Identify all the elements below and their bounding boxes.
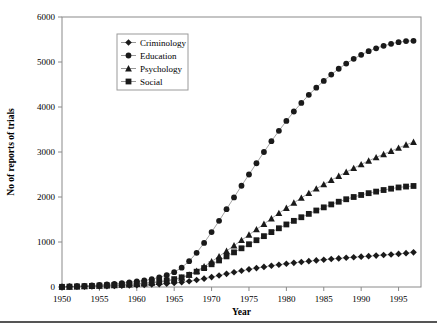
data-point-education — [411, 38, 417, 44]
data-point-social — [246, 241, 252, 247]
data-point-criminology — [261, 264, 268, 271]
data-point-social — [239, 245, 245, 251]
data-point-psychology — [373, 154, 380, 160]
y-tick-label: 6000 — [37, 12, 56, 22]
data-point-education — [276, 128, 282, 134]
data-point-criminology — [328, 256, 335, 263]
data-point-social — [119, 282, 125, 288]
data-point-education — [179, 265, 185, 271]
data-point-psychology — [365, 157, 372, 163]
data-point-criminology — [380, 252, 387, 259]
data-point-criminology — [298, 259, 305, 266]
data-point-social — [321, 204, 327, 210]
data-point-criminology — [365, 253, 372, 260]
data-point-psychology — [320, 181, 327, 187]
data-point-psychology — [350, 165, 357, 171]
data-point-criminology — [276, 261, 283, 268]
data-point-education — [239, 183, 245, 189]
data-point-criminology — [350, 254, 357, 261]
data-point-social — [351, 194, 357, 200]
figure-divider — [0, 321, 437, 323]
data-point-criminology — [223, 271, 230, 278]
data-point-criminology — [208, 274, 215, 281]
data-point-social — [171, 276, 177, 282]
data-point-criminology — [320, 256, 327, 263]
data-point-social — [358, 192, 364, 198]
data-point-education — [283, 118, 289, 124]
data-point-psychology — [403, 141, 410, 147]
data-point-education — [321, 78, 327, 84]
data-point-social — [156, 279, 162, 285]
data-point-education — [216, 218, 222, 224]
legend-label-social: Social — [140, 77, 163, 87]
y-tick-label: 4000 — [37, 102, 56, 112]
data-point-criminology — [186, 278, 193, 285]
data-point-social — [283, 222, 289, 228]
data-point-education — [171, 269, 177, 275]
data-point-psychology — [253, 226, 260, 232]
data-point-education — [164, 272, 170, 278]
data-point-psychology — [298, 194, 305, 200]
data-point-social — [328, 202, 334, 208]
data-point-psychology — [246, 231, 253, 237]
data-point-social — [411, 183, 417, 189]
data-point-social — [104, 282, 110, 288]
data-point-education — [328, 72, 334, 78]
data-point-criminology — [373, 252, 380, 259]
data-point-education — [254, 160, 260, 166]
y-tick-label: 0 — [51, 282, 56, 292]
data-point-psychology — [328, 177, 335, 183]
x-tick-label: 1965 — [165, 294, 184, 304]
data-point-social — [381, 187, 387, 193]
data-point-psychology — [305, 190, 312, 196]
y-axis-title: No of reports of trials — [6, 108, 16, 196]
data-point-social — [67, 284, 73, 290]
data-point-social — [216, 258, 222, 264]
data-point-psychology — [231, 242, 238, 248]
data-point-social — [149, 279, 155, 285]
data-point-social — [74, 284, 80, 290]
x-tick-label: 1990 — [352, 294, 371, 304]
data-point-social — [201, 265, 207, 271]
data-point-psychology — [335, 173, 342, 179]
data-point-social — [313, 208, 319, 214]
data-point-social — [224, 254, 230, 260]
data-point-education — [336, 66, 342, 72]
data-point-criminology — [216, 272, 223, 279]
legend-marker-education — [126, 53, 132, 59]
legend-marker-social — [126, 79, 132, 85]
data-point-criminology — [306, 258, 313, 265]
y-tick-label: 3000 — [37, 147, 56, 157]
data-point-psychology — [313, 185, 320, 191]
x-tick-label: 1985 — [315, 294, 334, 304]
data-point-psychology — [223, 248, 230, 254]
data-point-psychology — [238, 237, 245, 243]
data-point-education — [201, 240, 207, 246]
data-point-education — [186, 258, 192, 264]
data-point-social — [209, 261, 215, 267]
data-point-psychology — [410, 139, 417, 145]
data-point-social — [96, 283, 102, 289]
data-point-social — [269, 229, 275, 235]
data-point-education — [291, 109, 297, 115]
data-point-education — [396, 39, 402, 45]
data-point-psychology — [275, 210, 282, 216]
data-point-criminology — [335, 255, 342, 262]
data-point-education — [343, 61, 349, 67]
data-point-social — [194, 269, 200, 275]
y-tick-label: 5000 — [37, 57, 56, 67]
chart-figure: 0100020003000400050006000195019551960196… — [0, 0, 437, 332]
data-point-education — [373, 45, 379, 51]
data-point-social — [59, 284, 65, 290]
data-point-social — [111, 282, 117, 288]
data-point-education — [231, 195, 237, 201]
data-point-social — [291, 218, 297, 224]
data-point-education — [388, 41, 394, 47]
data-point-social — [298, 214, 304, 220]
data-point-psychology — [388, 148, 395, 154]
data-point-social — [336, 199, 342, 205]
data-point-education — [366, 48, 372, 54]
data-point-psychology — [290, 199, 297, 205]
data-point-education — [194, 250, 200, 256]
data-point-social — [179, 274, 185, 280]
